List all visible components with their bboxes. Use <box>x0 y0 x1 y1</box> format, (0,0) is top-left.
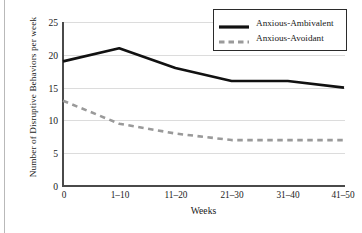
series-line-anxious-ambivalent <box>63 48 344 87</box>
dashed-line-icon <box>219 37 249 47</box>
y-tick-label-25: 25 <box>48 17 58 28</box>
page-edge-rule <box>4 0 5 233</box>
x-tick-label-0: 0 <box>62 190 67 200</box>
x-axis-title: Weeks <box>62 205 345 216</box>
figure: Number of Disruptive Behaviors per week … <box>0 0 362 233</box>
x-tick-label-3: 21–30 <box>220 190 243 200</box>
legend: Anxious-Ambivalent Anxious-Avoidant <box>213 9 347 51</box>
x-tick-label-4: 31–40 <box>276 190 299 200</box>
x-tick-label-1: 1–10 <box>111 190 130 200</box>
y-tick-label-10: 10 <box>48 115 58 126</box>
legend-swatch-dashed-line-icon <box>219 33 249 43</box>
legend-label-anxious-avoidant: Anxious-Avoidant <box>256 33 324 43</box>
x-tick-label-2: 11–20 <box>165 190 188 200</box>
legend-item-anxious-ambivalent: Anxious-Ambivalent <box>219 15 341 30</box>
y-tick-label-0: 0 <box>53 181 58 192</box>
y-tick-label-20: 20 <box>48 49 58 60</box>
legend-swatch-solid-line-icon <box>219 18 249 28</box>
x-tick-label-5: 41–50 <box>331 190 354 200</box>
y-tick-label-15: 15 <box>48 82 58 93</box>
solid-line-icon <box>219 22 249 32</box>
y-axis-title: Number of Disruptive Behaviors per week <box>28 12 38 182</box>
legend-item-anxious-avoidant: Anxious-Avoidant <box>219 30 341 45</box>
series-line-anxious-avoidant <box>63 101 344 140</box>
y-tick-label-5: 5 <box>53 148 58 159</box>
legend-label-anxious-ambivalent: Anxious-Ambivalent <box>256 18 334 28</box>
